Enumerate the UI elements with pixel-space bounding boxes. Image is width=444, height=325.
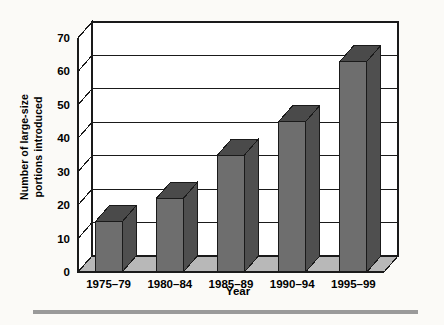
bar-1985–89 [218,139,259,272]
bottom-decorative-rule [33,310,418,314]
bar-front-face [279,122,306,272]
y-tick-label-30: 30 [57,166,70,178]
bar-1980–84 [156,182,197,272]
bar-front-face [95,222,122,272]
bar-1995–99 [340,45,381,272]
bar-side-face [306,106,320,272]
bar-side-face [367,45,381,272]
y-tick-label-0: 0 [64,266,70,278]
bar-front-face [340,61,367,272]
y-tick-label-60: 60 [57,65,70,77]
x-category-label-1980–84: 1980–84 [147,278,192,290]
x-category-label-1975–79: 1975–79 [86,278,131,290]
bar-front-face [218,155,245,272]
plot-left-wall [78,22,92,272]
bar-front-face [156,198,183,272]
bar-1975–79 [95,206,136,272]
y-tick-label-10: 10 [57,233,70,245]
bar-side-face [244,139,258,272]
x-axis-title: Year [226,285,251,297]
bar-1990–94 [279,106,320,272]
y-tick-label-50: 50 [57,99,70,111]
y-axis-title-line-2: portions introduced [32,96,44,197]
x-category-label-1995–99: 1995–99 [331,278,376,290]
y-axis-title-line-1: Number of large-size [18,94,30,200]
chart-canvas: 010203040506070 1975–791980–841985–89199… [0,0,444,325]
x-category-label-1990–94: 1990–94 [270,278,315,290]
y-tick-label-40: 40 [57,132,70,144]
y-tick-label-20: 20 [57,199,70,211]
y-tick-label-70: 70 [57,32,70,44]
bar-chart-figure: 010203040506070 1975–791980–841985–89199… [0,0,444,325]
